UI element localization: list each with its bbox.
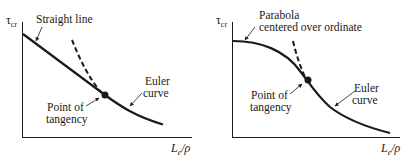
right-y-axis-label: τcr bbox=[216, 13, 227, 29]
left-straight-line-label: Straight line bbox=[36, 13, 93, 25]
left-tangency-leader bbox=[86, 98, 99, 106]
right-parabola-label-1: Parabola bbox=[259, 9, 299, 21]
right-euler-label-2: curve bbox=[352, 94, 378, 106]
left-dashed-euler-extension bbox=[72, 40, 101, 92]
left-x-axis-label: Le/ρ bbox=[171, 141, 190, 157]
left-euler-leader bbox=[130, 93, 142, 106]
left-tangency-label-1: Point of bbox=[47, 101, 84, 113]
right-dashed-euler-extension bbox=[293, 41, 305, 77]
right-x-axis-label: Le/ρ bbox=[381, 141, 400, 157]
right-euler-label-1: Euler bbox=[354, 82, 379, 94]
right-parabola-leader bbox=[245, 27, 255, 40]
right-diagram bbox=[232, 22, 400, 138]
left-y-axis-label: τcr bbox=[6, 13, 17, 29]
left-euler-label-1: Euler bbox=[145, 75, 170, 87]
left-tangency-point bbox=[102, 92, 109, 99]
right-tangency-point bbox=[305, 77, 312, 84]
right-parabola-label-2: centered over ordinate bbox=[259, 21, 362, 33]
left-euler-label-2: curve bbox=[143, 87, 169, 99]
left-straight-line-curve bbox=[23, 34, 163, 125]
left-tangency-label-2: tangency bbox=[46, 113, 88, 125]
right-tangency-leader bbox=[290, 84, 302, 94]
right-tangency-label-1: Point of bbox=[251, 89, 288, 101]
left-line-leader bbox=[36, 27, 42, 41]
right-tangency-label-2: tangency bbox=[250, 101, 292, 113]
